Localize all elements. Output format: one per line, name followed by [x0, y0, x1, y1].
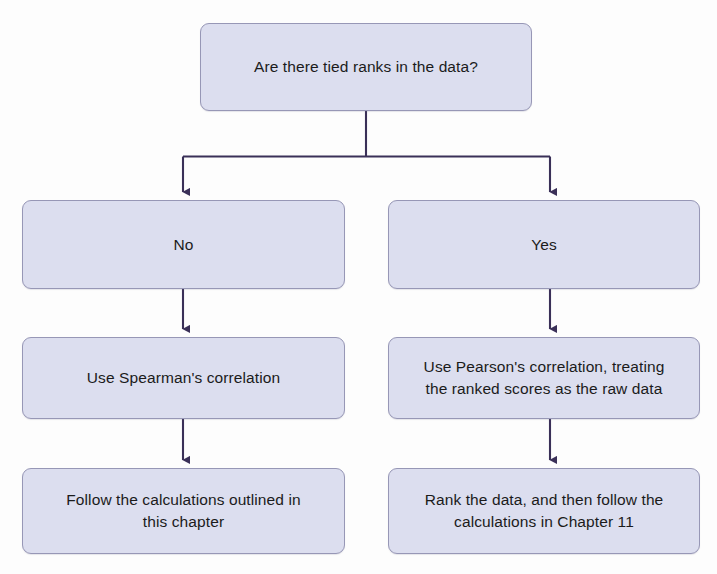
edge-question-to-branches [183, 111, 550, 192]
node-use-pearson-correlation: Use Pearson's correlation, treating the … [388, 337, 700, 419]
node-branch-no: No [22, 200, 345, 289]
node-question-label: Are there tied ranks in the data? [254, 56, 478, 78]
node-question: Are there tied ranks in the data? [200, 23, 532, 111]
node-follow-calculations: Follow the calculations outlined in this… [22, 468, 345, 554]
node-spearman-label: Use Spearman's correlation [87, 367, 280, 389]
node-follow-calcs-label: Follow the calculations outlined in this… [66, 489, 300, 533]
node-rank-the-data: Rank the data, and then follow the calcu… [388, 468, 700, 554]
node-branch-no-label: No [173, 234, 193, 256]
node-branch-yes: Yes [388, 200, 700, 289]
node-branch-yes-label: Yes [531, 234, 557, 256]
node-pearson-label: Use Pearson's correlation, treating the … [424, 356, 665, 400]
node-use-spearman-correlation: Use Spearman's correlation [22, 337, 345, 419]
node-rank-data-label: Rank the data, and then follow the calcu… [425, 489, 664, 533]
flowchart-diagram: Are there tied ranks in the data? No Yes… [0, 0, 717, 574]
